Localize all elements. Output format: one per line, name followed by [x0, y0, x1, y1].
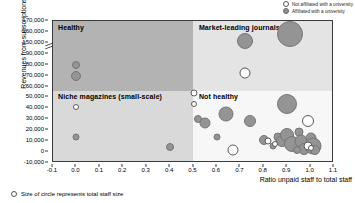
data-point: [228, 145, 239, 156]
filled-circle-icon: [283, 8, 289, 14]
data-point: [213, 133, 220, 140]
data-point: [191, 101, 197, 107]
data-point: [73, 104, 79, 110]
x-tick-mark: [169, 164, 170, 167]
y-tick-label: 0: [41, 148, 44, 154]
y-tick-mark: [45, 107, 48, 108]
quadrant-label-healthy: Healthy: [58, 24, 84, 31]
x-tick-label: 0.3: [141, 167, 149, 173]
x-tick-mark: [333, 164, 334, 167]
y-tick-label: 60,000: [26, 83, 44, 89]
x-tick-mark: [262, 164, 263, 167]
data-point: [166, 143, 174, 151]
x-tick-mark: [145, 164, 146, 167]
y-tick-mark: [45, 151, 48, 152]
x-tick-mark: [98, 164, 99, 167]
y-tick-mark: [45, 20, 48, 21]
x-axis-ticks: -0.10.00.10.20.30.40.50.60.70.80.91.01.1: [52, 164, 333, 176]
open-circle-icon: [283, 1, 289, 7]
y-tick-mark: [45, 63, 48, 64]
data-point: [293, 146, 301, 154]
y-tick-label: 10,000: [26, 137, 44, 143]
quadrant-label-niche: Niche magazines (small-scale): [58, 93, 162, 100]
quadrant-label-not-healthy: Not healthy: [199, 93, 238, 100]
data-point: [277, 21, 303, 47]
quadrant-niche: [53, 91, 193, 161]
x-tick-label: 1.1: [329, 167, 337, 173]
y-tick-label: 160,000: [22, 28, 44, 34]
x-tick-mark: [122, 164, 123, 167]
plot-area: Healthy Market-leading journals Niche ma…: [52, 20, 333, 162]
x-tick-label: 0.8: [259, 167, 267, 173]
x-tick-mark: [215, 164, 216, 167]
y-tick-mark: [45, 162, 48, 163]
x-tick-label: 0.2: [118, 167, 126, 173]
y-tick-mark: [45, 129, 48, 130]
x-tick-mark: [309, 164, 310, 167]
x-tick-label: 0.5: [188, 167, 196, 173]
legend-label-not-affiliated: Not affiliated with a university: [292, 2, 353, 7]
data-point: [190, 90, 197, 97]
x-tick-label: 0.4: [165, 167, 173, 173]
y-axis-ticks: 170,000160,000150,00090,00080,00070,0006…: [0, 20, 48, 162]
y-tick-label: 90,000: [26, 50, 44, 56]
y-tick-mark: [45, 96, 48, 97]
data-point: [237, 33, 253, 49]
x-tick-mark: [286, 164, 287, 167]
y-tick-label: 150,000: [22, 39, 44, 45]
y-tick-mark: [45, 118, 48, 119]
y-tick-label: -10,000: [24, 159, 44, 165]
x-tick-mark: [239, 164, 240, 167]
data-point: [200, 117, 211, 128]
x-tick-label: 0.0: [71, 167, 79, 173]
y-tick-label: 80,000: [26, 61, 44, 67]
y-tick-mark: [45, 52, 48, 53]
y-tick-label: 40,000: [26, 104, 44, 110]
x-tick-label: 0.9: [282, 167, 290, 173]
x-axis-title: Ratio unpaid staff to total staff: [260, 176, 352, 183]
data-point: [244, 115, 256, 127]
x-tick-label: 0.7: [235, 167, 243, 173]
data-point: [277, 94, 297, 114]
x-tick-label: 0.6: [212, 167, 220, 173]
x-tick-label: 0.1: [95, 167, 103, 173]
data-point: [219, 106, 234, 121]
footnote-label: Size of circle represents total staff si…: [21, 191, 123, 197]
data-point: [72, 61, 80, 69]
data-point: [308, 145, 314, 151]
x-tick-label: 1.0: [305, 167, 313, 173]
data-point: [240, 68, 251, 79]
legend-label-affiliated: Affiliated with a university: [292, 9, 345, 14]
y-tick-mark: [45, 85, 48, 86]
data-point: [302, 115, 314, 127]
quadrant-market-leading: [193, 21, 333, 91]
y-tick-mark: [45, 140, 48, 141]
x-tick-label: -0.1: [47, 167, 57, 173]
y-tick-mark: [45, 74, 48, 75]
y-tick-label: 70,000: [26, 72, 44, 78]
legend-item-not-affiliated: Not affiliated with a university: [283, 1, 353, 7]
y-tick-mark: [45, 41, 48, 42]
quadrant-healthy: [53, 21, 193, 91]
scatter-chart: Not affiliated with a university Affilia…: [0, 0, 355, 203]
open-circle-icon: [11, 191, 17, 197]
chart-footnote: Size of circle represents total staff si…: [11, 191, 123, 197]
chart-legend: Not affiliated with a university Affilia…: [283, 1, 353, 14]
y-tick-label: 170,000: [22, 17, 44, 23]
y-tick-mark: [45, 30, 48, 31]
data-point: [71, 71, 81, 81]
data-point: [265, 138, 272, 145]
x-tick-mark: [52, 164, 53, 167]
y-tick-label: 30,000: [26, 115, 44, 121]
x-tick-mark: [192, 164, 193, 167]
y-tick-label: 50,000: [26, 93, 44, 99]
data-point: [73, 133, 80, 140]
legend-item-affiliated: Affiliated with a university: [283, 8, 345, 14]
x-tick-mark: [75, 164, 76, 167]
y-tick-label: 20,000: [26, 126, 44, 132]
data-point: [272, 141, 278, 147]
quadrant-label-market-leading: Market-leading journals: [199, 24, 280, 31]
